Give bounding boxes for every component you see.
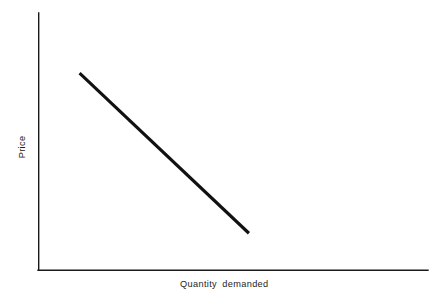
x-axis-label: Quantity demanded — [180, 280, 269, 289]
demand-curve-line — [80, 73, 249, 233]
demand-curve-figure: Quantity demanded Price — [0, 0, 446, 299]
chart-canvas — [0, 0, 446, 299]
y-axis-label: Price — [18, 136, 27, 159]
